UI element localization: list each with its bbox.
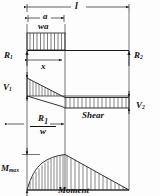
ratio-numerator: R1 bbox=[30, 114, 56, 125]
reaction-right-label: R2 bbox=[134, 51, 143, 61]
reaction-right-subscript: 2 bbox=[140, 54, 143, 60]
shear-left-label: V1 bbox=[3, 83, 12, 93]
moment-max-symbol: M bbox=[1, 163, 9, 173]
moment-max-dimension bbox=[22, 148, 40, 196]
shear-right-subscript: 2 bbox=[142, 104, 145, 110]
reaction-left-subscript: 1 bbox=[10, 54, 13, 60]
moment-max-label: Mmax bbox=[1, 164, 19, 174]
span-label: l bbox=[75, 1, 78, 11]
ratio-denominator: w bbox=[30, 127, 56, 136]
shear-left-subscript: 1 bbox=[9, 86, 12, 92]
shear-caption: Shear bbox=[82, 110, 104, 120]
moment-caption: Moment bbox=[58, 185, 89, 195]
x-distance-label: x bbox=[41, 62, 46, 71]
diagram-canvas bbox=[0, 0, 160, 196]
distributed-load-block bbox=[27, 33, 65, 50]
reaction-left-label: R1 bbox=[4, 51, 13, 61]
load-intensity-label: wa bbox=[38, 22, 49, 31]
shear-right-label: V2 bbox=[136, 101, 145, 111]
beam-shear-moment-diagram: l a wa R1 R2 x V1 V2 Shear R1 w Mmax Mom… bbox=[0, 0, 160, 196]
shear-diagram bbox=[27, 78, 129, 108]
moment-max-subscript: max bbox=[9, 167, 19, 173]
ratio-r1-over-w: R1 w bbox=[30, 114, 56, 137]
load-length-label: a bbox=[43, 12, 48, 21]
